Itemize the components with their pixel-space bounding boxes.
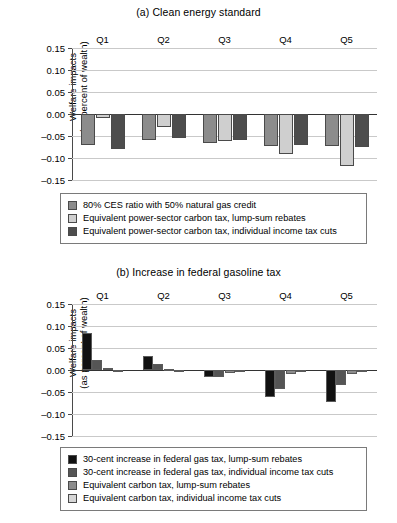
legend-label: 80% CES ratio with 50% natural gas credi… bbox=[83, 200, 256, 211]
bar bbox=[235, 370, 245, 372]
bar bbox=[143, 356, 153, 370]
y-tick-mark bbox=[68, 180, 72, 181]
legend-label: 30-cent increase in federal gas tax, lum… bbox=[83, 454, 302, 465]
bar bbox=[157, 114, 171, 127]
legend-swatch-icon bbox=[68, 201, 77, 210]
bar bbox=[113, 370, 123, 372]
y-tick-label: 0.00 bbox=[27, 365, 65, 376]
y-tick-label: 0.05 bbox=[27, 343, 65, 354]
bar bbox=[279, 114, 293, 154]
x-tick-label-q3: Q3 bbox=[218, 34, 231, 45]
figure-page: (a) Clean energy standard Welfare impact… bbox=[0, 0, 397, 523]
y-tick-label: –0.15 bbox=[27, 431, 65, 442]
y-tick-label: –0.10 bbox=[27, 153, 65, 164]
panel-b-title: (b) Increase in federal gasoline tax bbox=[0, 266, 397, 278]
legend-label: Equivalent power-sector carbon tax, indi… bbox=[83, 226, 337, 237]
bar bbox=[218, 114, 232, 141]
x-tick-label-q4: Q4 bbox=[279, 290, 292, 301]
bar bbox=[340, 114, 354, 166]
chart-panel-b: (b) Increase in federal gasoline tax Wel… bbox=[0, 260, 397, 523]
x-tick-label-q4: Q4 bbox=[279, 34, 292, 45]
panel-b-bars bbox=[72, 304, 377, 436]
x-tick-label-q2: Q2 bbox=[157, 290, 170, 301]
legend-row: 30-cent increase in federal gas tax, lum… bbox=[68, 454, 358, 465]
bar bbox=[225, 370, 235, 373]
legend-swatch-icon bbox=[68, 227, 77, 236]
y-tick-label: –0.10 bbox=[27, 409, 65, 420]
bar bbox=[357, 370, 367, 372]
panel-a-legend: 80% CES ratio with 50% natural gas credi… bbox=[60, 193, 367, 244]
bar bbox=[92, 360, 102, 370]
bar bbox=[174, 370, 184, 372]
x-tick-label-q5: Q5 bbox=[340, 290, 353, 301]
legend-label: Equivalent carbon tax, lump-sum rebates bbox=[83, 480, 250, 491]
bar bbox=[204, 370, 214, 377]
legend-label: Equivalent power-sector carbon tax, lump… bbox=[83, 213, 306, 224]
bar bbox=[172, 114, 186, 138]
legend-swatch-icon bbox=[68, 455, 77, 464]
bar bbox=[264, 114, 278, 146]
grid-line bbox=[72, 436, 377, 437]
y-tick-label: 0.15 bbox=[27, 43, 65, 54]
legend-label: Equivalent carbon tax, individual income… bbox=[83, 493, 281, 504]
grid-line bbox=[72, 180, 377, 181]
bar bbox=[203, 114, 217, 143]
legend-row: Equivalent power-sector carbon tax, indi… bbox=[68, 226, 358, 237]
y-tick-label: 0.10 bbox=[27, 321, 65, 332]
bar bbox=[82, 333, 92, 370]
x-tick-label-q1: Q1 bbox=[96, 290, 109, 301]
y-tick-label: –0.05 bbox=[27, 387, 65, 398]
bar bbox=[326, 370, 336, 402]
bar bbox=[111, 114, 125, 149]
y-tick-label: 0.10 bbox=[27, 65, 65, 76]
y-tick-label: –0.15 bbox=[27, 175, 65, 186]
bar bbox=[214, 370, 224, 377]
y-tick-label: 0.05 bbox=[27, 87, 65, 98]
chart-panel-a: (a) Clean energy standard Welfare impact… bbox=[0, 0, 397, 260]
x-tick-label-q1: Q1 bbox=[96, 34, 109, 45]
panel-b-legend: 30-cent increase in federal gas tax, lum… bbox=[60, 447, 367, 511]
x-tick-label-q3: Q3 bbox=[218, 290, 231, 301]
bar bbox=[347, 370, 357, 374]
bar bbox=[103, 368, 113, 370]
legend-row: 30-cent increase in federal gas tax, ind… bbox=[68, 467, 358, 478]
panel-b-plot-area: Welfare impacts (as percent of wealth) 0… bbox=[72, 304, 377, 436]
bar bbox=[296, 370, 306, 372]
x-tick-label-q2: Q2 bbox=[157, 34, 170, 45]
bar bbox=[81, 114, 95, 145]
panel-a-plot-area: Welfare impacts (as percent of wealth) 0… bbox=[72, 48, 377, 180]
bar bbox=[325, 114, 339, 146]
legend-row: Equivalent carbon tax, individual income… bbox=[68, 493, 358, 504]
legend-row: 80% CES ratio with 50% natural gas credi… bbox=[68, 200, 358, 211]
bar bbox=[153, 364, 163, 370]
bar bbox=[275, 370, 285, 389]
bar bbox=[294, 114, 308, 145]
y-tick-label: –0.05 bbox=[27, 131, 65, 142]
legend-label: 30-cent increase in federal gas tax, ind… bbox=[83, 467, 333, 478]
bar bbox=[164, 369, 174, 371]
bar bbox=[233, 114, 247, 140]
bar bbox=[336, 370, 346, 385]
y-tick-mark bbox=[68, 436, 72, 437]
bar bbox=[265, 370, 275, 397]
panel-a-title: (a) Clean energy standard bbox=[0, 6, 397, 18]
y-tick-label: 0.00 bbox=[27, 109, 65, 120]
bar bbox=[96, 114, 110, 118]
bar bbox=[142, 114, 156, 140]
legend-row: Equivalent carbon tax, lump-sum rebates bbox=[68, 480, 358, 491]
legend-row: Equivalent power-sector carbon tax, lump… bbox=[68, 213, 358, 224]
legend-swatch-icon bbox=[68, 494, 77, 503]
panel-a-bars bbox=[72, 48, 377, 180]
bar bbox=[355, 114, 369, 147]
x-tick-label-q5: Q5 bbox=[340, 34, 353, 45]
legend-swatch-icon bbox=[68, 481, 77, 490]
legend-swatch-icon bbox=[68, 214, 77, 223]
bar bbox=[286, 370, 296, 374]
y-tick-label: 0.15 bbox=[27, 299, 65, 310]
legend-swatch-icon bbox=[68, 468, 77, 477]
